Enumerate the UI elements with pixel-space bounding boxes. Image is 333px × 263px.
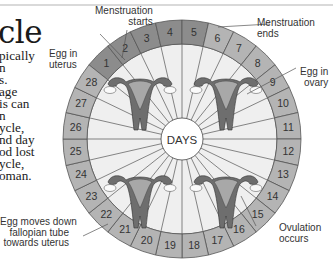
- label-egg-in-ovary: Egg in ovary: [300, 67, 328, 88]
- day-number: 27: [75, 97, 87, 109]
- day-number: 12: [282, 145, 294, 157]
- day-number: 18: [188, 239, 200, 251]
- day-number: 13: [277, 168, 289, 180]
- day-number: 5: [191, 26, 197, 38]
- day-number: 3: [144, 32, 150, 44]
- day-number: 14: [267, 190, 279, 202]
- day-number: 26: [70, 121, 82, 133]
- label-line: Menstruation: [257, 18, 315, 29]
- label-line: occurs: [279, 234, 321, 245]
- day-number: 21: [119, 223, 131, 235]
- day-number: 16: [233, 223, 245, 235]
- day-number: 11: [283, 121, 294, 133]
- day-number: 1: [103, 57, 109, 69]
- day-number: 23: [86, 190, 98, 202]
- day-number: 10: [277, 97, 289, 109]
- label-line: starts: [95, 17, 153, 28]
- label-line: ends: [257, 29, 315, 40]
- day-number: 19: [164, 239, 176, 251]
- label-egg-in-uterus: Egg in uterus: [49, 49, 77, 70]
- day-number: 8: [255, 57, 261, 69]
- day-number: 20: [141, 234, 153, 246]
- label-line: Ovulation: [279, 223, 321, 234]
- day-number: 17: [211, 234, 223, 246]
- label-line: Egg in: [300, 67, 328, 78]
- day-number: 4: [167, 26, 173, 38]
- label-line: Egg moves down: [0, 217, 69, 228]
- label-line: towards uterus: [0, 238, 69, 249]
- days-label: DAYS: [167, 134, 198, 146]
- label-egg-moves-down: Egg moves down fallopian tube towards ut…: [0, 217, 69, 249]
- day-number: 24: [75, 168, 87, 180]
- label-line: uterus: [49, 60, 77, 71]
- day-number: 15: [252, 208, 264, 220]
- day-number: 22: [100, 208, 112, 220]
- label-menstruation-starts: Menstruation starts: [95, 6, 153, 27]
- label-menstruation-ends: Menstruation ends: [257, 18, 315, 39]
- day-number: 7: [236, 42, 242, 54]
- day-number: 6: [214, 32, 220, 44]
- label-line: Menstruation: [95, 6, 153, 17]
- day-number: 25: [70, 145, 82, 157]
- label-line: ovary: [300, 78, 328, 89]
- label-ovulation-occurs: Ovulation occurs: [279, 223, 321, 244]
- day-number: 28: [86, 76, 98, 88]
- label-line: Egg in: [49, 49, 77, 60]
